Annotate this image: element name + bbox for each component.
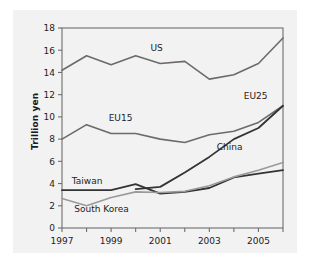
y-tick-label: 8 (49, 134, 55, 144)
series-line-eu25 (62, 106, 283, 143)
series-label-us: US (150, 43, 163, 53)
y-tick-label: 6 (49, 157, 55, 167)
y-tick-label: 18 (44, 23, 56, 33)
series-label-taiwan: Taiwan (71, 176, 103, 186)
chart-figure: Trillion yen 024681012141618199719992001… (0, 0, 310, 263)
y-tick-label: 10 (44, 112, 56, 122)
series-label-china: China (217, 142, 243, 152)
series-labels: USEU25EU15ChinaTaiwanSouth Korea (71, 43, 268, 214)
x-tick-label: 2005 (247, 236, 270, 246)
x-tick-label: 1999 (100, 236, 123, 246)
series-line-us (62, 38, 283, 79)
y-tick-label: 2 (49, 201, 55, 211)
x-tick-label: 1997 (51, 236, 74, 246)
y-tick-label: 4 (49, 179, 55, 189)
y-tick-label: 0 (49, 223, 55, 233)
x-tick-label: 2003 (198, 236, 221, 246)
chart-plot: 02468101214161819971999200120032005 USEU… (0, 0, 310, 263)
series-line-china (136, 106, 283, 189)
x-tick-label: 2001 (149, 236, 172, 246)
y-tick-label: 14 (44, 68, 56, 78)
y-tick-label: 12 (44, 90, 55, 100)
series-label-eu25: EU25 (244, 91, 268, 101)
series-label-eu15: EU15 (109, 113, 133, 123)
axis-ticks (58, 28, 283, 232)
series-label-south-korea: South Korea (74, 204, 129, 214)
y-tick-label: 16 (44, 46, 56, 56)
